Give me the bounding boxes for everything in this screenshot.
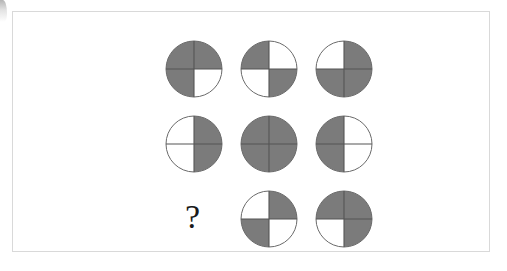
missing-cell-question-mark: ? xyxy=(185,200,200,234)
circle-r3c2 xyxy=(240,190,298,248)
matrix-cell-r3c3 xyxy=(306,181,381,256)
matrix-cell-r1c1 xyxy=(156,31,231,106)
matrix-cell-r2c3 xyxy=(306,106,381,181)
circle-r1c3 xyxy=(315,40,373,98)
matrix-grid: ? xyxy=(156,31,380,256)
matrix-cell-r1c3 xyxy=(306,31,381,106)
scan-artifact xyxy=(0,0,7,22)
matrix-reasoning-puzzle: ? xyxy=(0,0,507,271)
matrix-cell-r2c2 xyxy=(231,106,306,181)
matrix-cell-r1c2 xyxy=(231,31,306,106)
circle-r1c1 xyxy=(165,40,223,98)
circle-r3c3 xyxy=(315,190,373,248)
circle-r2c1 xyxy=(165,115,223,173)
matrix-cell-r2c1 xyxy=(156,106,231,181)
circle-r1c2 xyxy=(240,40,298,98)
puzzle-panel-frame: ? xyxy=(12,11,490,252)
matrix-cell-r3c1: ? xyxy=(156,181,231,256)
circle-r2c2 xyxy=(240,115,298,173)
matrix-cell-r3c2 xyxy=(231,181,306,256)
circle-r2c3 xyxy=(315,115,373,173)
